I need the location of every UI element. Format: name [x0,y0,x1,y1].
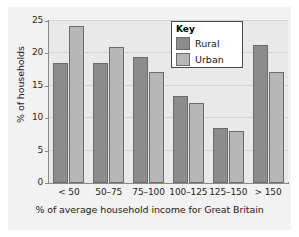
y-tick-label: 5 [37,146,43,155]
y-tick-mark [45,151,49,152]
y-tick-mark [45,183,49,184]
y-tick-label-wrap: 20 [20,48,43,58]
y-tick-label: 10 [32,113,43,122]
y-tick-label-wrap: 25 [20,16,43,26]
legend-swatch-rural-icon [176,37,190,50]
x-tick-label-5: > 150 [243,187,293,197]
legend-item-rural: Rural [176,36,238,51]
bar-urban-3 [189,103,204,183]
y-tick-mark [45,21,49,22]
bar-rural-0 [53,63,68,183]
bar-rural-1 [93,63,108,183]
bar-rural-3 [173,96,188,183]
bar-urban-2 [149,72,164,183]
bars-layer [49,21,288,183]
y-tick-label-wrap: 15 [20,81,43,91]
bar-rural-4 [213,128,228,183]
y-tick-label-wrap: 10 [20,113,43,123]
y-tick-mark [45,86,49,87]
y-tick-label-wrap: 5 [20,146,43,156]
legend-item-urban: Urban [176,52,238,67]
legend-swatch-urban-icon [176,53,190,66]
y-tick-mark [45,118,49,119]
legend-key-box: Key Rural Urban [171,21,243,68]
bar-rural-5 [253,45,268,183]
bar-urban-5 [269,72,284,183]
y-tick-label: 20 [32,48,43,57]
bar-urban-4 [229,131,244,183]
x-axis-title: % of average household income for Great … [8,204,291,215]
legend-label-urban: Urban [195,54,224,65]
bar-urban-0 [69,26,84,183]
y-tick-label: 15 [32,81,43,90]
y-tick-mark [45,53,49,54]
figure-frame: % of households 0510152025 < 5050–7575–1… [8,7,291,230]
legend-title: Key [176,24,238,35]
plot-area [49,21,288,183]
bar-rural-2 [133,57,148,183]
y-tick-label-wrap: 0 [20,178,43,188]
y-tick-label: 0 [37,178,43,187]
bar-urban-1 [109,47,124,183]
chart-figure: % of households 0510152025 < 5050–7575–1… [0,0,299,237]
legend-label-rural: Rural [195,38,220,49]
y-tick-label: 25 [32,16,43,25]
